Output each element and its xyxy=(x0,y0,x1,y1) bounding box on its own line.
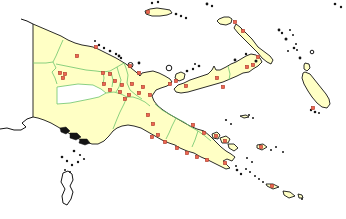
islet xyxy=(94,40,96,42)
islet xyxy=(245,168,247,170)
town-marker[interactable] xyxy=(202,131,205,134)
islet xyxy=(293,47,296,50)
town-marker[interactable] xyxy=(175,146,178,149)
town-marker[interactable] xyxy=(113,79,116,82)
islet xyxy=(255,60,258,63)
islet xyxy=(151,2,153,4)
town-marker[interactable] xyxy=(223,139,226,142)
islet xyxy=(69,171,71,173)
islet xyxy=(230,123,232,125)
islet xyxy=(275,146,277,148)
town-marker[interactable] xyxy=(185,151,188,154)
town-marker[interactable] xyxy=(128,64,131,67)
town-marker[interactable] xyxy=(184,84,187,87)
islet xyxy=(301,198,303,200)
town-marker[interactable] xyxy=(168,82,171,85)
map-viewport xyxy=(0,0,346,219)
islet xyxy=(292,34,294,36)
islet xyxy=(246,157,248,159)
town-marker[interactable] xyxy=(156,133,159,136)
islet xyxy=(118,55,121,58)
buka-island xyxy=(304,63,310,71)
town-marker[interactable] xyxy=(146,10,149,13)
town-marker[interactable] xyxy=(146,113,149,116)
town-marker[interactable] xyxy=(148,93,151,96)
islet xyxy=(206,3,209,6)
islet xyxy=(249,171,251,173)
town-marker[interactable] xyxy=(58,71,61,74)
town-marker[interactable] xyxy=(137,71,140,74)
islet xyxy=(314,111,317,114)
long-island xyxy=(166,65,172,71)
town-marker[interactable] xyxy=(174,79,177,82)
islet xyxy=(157,1,159,3)
town-marker[interactable] xyxy=(108,88,111,91)
town-marker[interactable] xyxy=(141,85,144,88)
town-marker[interactable] xyxy=(151,122,154,125)
islet xyxy=(138,62,141,65)
nissan-atoll xyxy=(310,50,314,54)
islet xyxy=(240,173,242,175)
town-marker[interactable] xyxy=(191,123,194,126)
town-marker[interactable] xyxy=(195,155,198,158)
islet xyxy=(194,63,196,65)
town-marker[interactable] xyxy=(223,161,226,164)
islet xyxy=(287,50,289,52)
town-marker[interactable] xyxy=(205,158,208,161)
islet xyxy=(77,161,79,163)
islet xyxy=(61,156,64,159)
tagula-island xyxy=(283,191,295,198)
town-marker[interactable] xyxy=(270,184,273,187)
town-marker[interactable] xyxy=(215,76,218,79)
cape-york-australia xyxy=(61,171,73,205)
town-marker[interactable] xyxy=(130,82,133,85)
islet xyxy=(185,17,187,19)
islet xyxy=(296,49,298,51)
islet xyxy=(225,119,227,121)
rossel-island xyxy=(298,194,303,198)
town-marker[interactable] xyxy=(75,54,78,57)
town-marker[interactable] xyxy=(118,90,121,93)
town-marker[interactable] xyxy=(245,65,248,68)
islet xyxy=(270,149,272,151)
islet xyxy=(340,6,342,8)
town-marker[interactable] xyxy=(214,134,217,137)
town-marker[interactable] xyxy=(311,106,314,109)
islet xyxy=(334,3,337,6)
islet xyxy=(262,181,264,183)
town-marker[interactable] xyxy=(94,45,97,48)
town-marker[interactable] xyxy=(120,83,123,86)
town-marker[interactable] xyxy=(150,135,153,138)
islet xyxy=(258,178,260,180)
town-marker[interactable] xyxy=(137,91,140,94)
town-marker[interactable] xyxy=(163,140,166,143)
town-marker[interactable] xyxy=(221,85,224,88)
islet xyxy=(186,70,189,73)
town-marker[interactable] xyxy=(61,76,64,79)
islet xyxy=(109,50,112,53)
islet xyxy=(234,59,237,62)
town-marker[interactable] xyxy=(233,20,236,23)
town-marker[interactable] xyxy=(127,93,130,96)
town-marker[interactable] xyxy=(108,72,111,75)
town-marker[interactable] xyxy=(101,71,104,74)
town-marker[interactable] xyxy=(256,55,259,58)
islet xyxy=(281,32,283,34)
islet xyxy=(211,5,213,7)
indonesia-north-coast xyxy=(21,19,33,24)
islet xyxy=(192,68,194,70)
islet xyxy=(295,43,297,45)
islet xyxy=(115,53,117,55)
town-marker[interactable] xyxy=(241,29,244,32)
islet xyxy=(98,44,100,46)
islet xyxy=(254,175,256,177)
new-hanover-island xyxy=(217,17,232,25)
town-marker[interactable] xyxy=(63,72,66,75)
town-marker[interactable] xyxy=(102,82,105,85)
town-marker[interactable] xyxy=(259,145,262,148)
town-marker[interactable] xyxy=(123,97,126,100)
islet xyxy=(120,57,122,59)
normanby-island xyxy=(228,144,238,151)
town-marker[interactable] xyxy=(251,63,254,66)
islet xyxy=(103,47,105,49)
